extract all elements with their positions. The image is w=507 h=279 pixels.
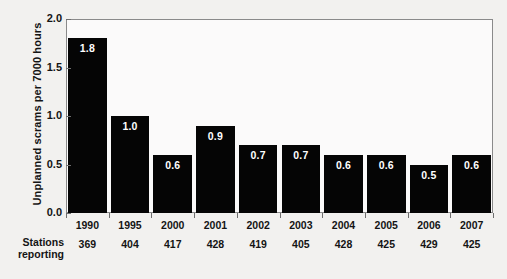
bar-value-label: 0.6	[452, 159, 491, 171]
stations-reporting-value: 425	[365, 238, 408, 251]
y-axis-tick-label: 1.5	[28, 62, 62, 73]
x-axis-column: 2007425	[450, 219, 493, 251]
bar: 0.6	[153, 155, 192, 213]
x-axis-tick-mark	[322, 213, 323, 218]
x-axis-tick-mark	[280, 213, 281, 218]
bar-value-label: 1.0	[111, 120, 150, 132]
x-axis-tick-mark	[237, 213, 238, 218]
stations-reporting-line2: reporting	[6, 248, 64, 260]
x-axis-year-label: 2004	[322, 219, 365, 232]
stations-reporting-row-label: Stations reporting	[6, 236, 64, 260]
x-axis-year-label: 2003	[280, 219, 323, 232]
x-axis-column: 1995404	[109, 219, 152, 251]
bar: 0.5	[410, 165, 449, 214]
x-axis-tick-mark	[450, 213, 451, 218]
x-axis-column: 2004428	[322, 219, 365, 251]
bar-value-label: 0.7	[239, 149, 278, 161]
x-axis-year-label: 2000	[151, 219, 194, 232]
x-axis-column: 2006429	[408, 219, 451, 251]
stations-reporting-value: 428	[194, 238, 237, 251]
bar-value-label: 0.6	[367, 159, 406, 171]
bars-container: 1.81.00.60.90.70.70.60.60.50.6	[66, 19, 493, 213]
x-axis-year-label: 2006	[408, 219, 451, 232]
stations-reporting-value: 429	[408, 238, 451, 251]
x-axis-year-label: 2007	[450, 219, 493, 232]
x-axis-tick-mark	[408, 213, 409, 218]
bar-value-label: 0.5	[410, 169, 449, 181]
y-axis-tick-label: 2.0	[28, 13, 62, 24]
y-axis-tick-mark	[66, 68, 71, 69]
x-axis-labels: 1990369199540420004172001428200241920034…	[66, 219, 493, 259]
x-axis-year-label: 2002	[237, 219, 280, 232]
y-axis-tick-label: 0.5	[28, 159, 62, 170]
x-axis-tick-mark	[109, 213, 110, 218]
bar-value-label: 0.7	[282, 149, 321, 161]
x-axis-tick-mark	[66, 213, 67, 218]
stations-reporting-line1: Stations	[6, 236, 64, 248]
x-axis-column: 2000417	[151, 219, 194, 251]
x-axis-tick-mark	[194, 213, 195, 218]
x-axis-tick-mark	[151, 213, 152, 218]
x-axis-year-label: 1995	[109, 219, 152, 232]
bar-value-label: 0.9	[196, 130, 235, 142]
bar: 1.0	[111, 116, 150, 213]
bar: 1.8	[68, 38, 107, 213]
x-axis-column: 2003405	[280, 219, 323, 251]
bar-value-label: 0.6	[324, 159, 363, 171]
x-axis-year-label: 2001	[194, 219, 237, 232]
stations-reporting-value: 417	[151, 238, 194, 251]
bar: 0.7	[239, 145, 278, 213]
stations-reporting-value: 425	[450, 238, 493, 251]
x-axis-year-label: 1990	[66, 219, 109, 232]
bar-value-label: 0.6	[153, 159, 192, 171]
x-axis-column: 2005425	[365, 219, 408, 251]
x-axis-year-label: 2005	[365, 219, 408, 232]
y-axis-tick-mark	[66, 165, 71, 166]
bar: 0.6	[452, 155, 491, 213]
y-axis-tick-mark	[66, 19, 71, 20]
bar: 0.6	[324, 155, 363, 213]
x-axis-tick-mark	[365, 213, 366, 218]
bar: 0.7	[282, 145, 321, 213]
bar-value-label: 1.8	[68, 42, 107, 54]
x-axis-tick-mark	[493, 213, 494, 218]
bar-chart-figure: Unplanned scrams per 7000 hours 0.00.51.…	[0, 0, 507, 279]
x-axis-column: 2001428	[194, 219, 237, 251]
stations-reporting-value: 428	[322, 238, 365, 251]
y-axis-tick-label: 0.0	[28, 207, 62, 218]
stations-reporting-value: 419	[237, 238, 280, 251]
x-axis-column: 2002419	[237, 219, 280, 251]
stations-reporting-value: 405	[280, 238, 323, 251]
y-axis-tick-mark	[66, 116, 71, 117]
x-axis-column: 1990369	[66, 219, 109, 251]
bar: 0.9	[196, 126, 235, 213]
stations-reporting-value: 369	[66, 238, 109, 251]
bar: 0.6	[367, 155, 406, 213]
y-axis-tick-label: 1.0	[28, 110, 62, 121]
stations-reporting-value: 404	[109, 238, 152, 251]
